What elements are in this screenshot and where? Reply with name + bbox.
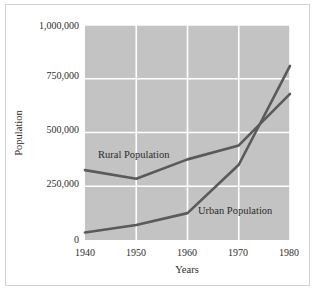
y-tick-label-500000: 500,000 bbox=[47, 124, 80, 135]
x-axis-title: Years bbox=[175, 264, 198, 275]
x-tick-label-1940: 1940 bbox=[75, 247, 95, 258]
series-label-rural: Rural Population bbox=[98, 149, 170, 160]
x-tick-label-1970: 1970 bbox=[228, 247, 248, 258]
x-tick-label-1950: 1950 bbox=[126, 247, 146, 258]
y-axis-title: Population bbox=[13, 110, 24, 156]
y-tick-label-1000000: 1,000,000 bbox=[39, 20, 79, 31]
population-line-chart: 1,000,000 750,000 500,000 250,000 0 1940… bbox=[0, 0, 315, 291]
y-tick-label-750000: 750,000 bbox=[47, 70, 80, 81]
x-tick-label-1980: 1980 bbox=[279, 247, 299, 258]
y-tick-label-250000: 250,000 bbox=[47, 178, 80, 189]
x-tick-label-1960: 1960 bbox=[177, 247, 197, 258]
chart-figure: 1,000,000 750,000 500,000 250,000 0 1940… bbox=[0, 0, 315, 291]
y-tick-label-0: 0 bbox=[74, 234, 79, 245]
series-label-urban: Urban Population bbox=[198, 205, 273, 216]
